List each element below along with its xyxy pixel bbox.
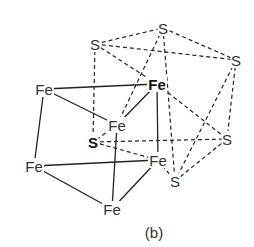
dashed-bond	[175, 60, 236, 181]
atom-label: S	[158, 20, 168, 37]
atom-fe: Fe	[34, 81, 54, 98]
atom-s: S	[222, 131, 233, 148]
solid-bond	[34, 89, 44, 166]
dashed-bond	[93, 44, 95, 142]
dashed-bond	[93, 139, 227, 142]
atom-label: Fe	[25, 158, 43, 175]
atom-label: Fe	[35, 81, 53, 98]
atom-fe: Fe	[147, 76, 167, 93]
atom-s: S	[231, 52, 242, 69]
atom-label: S	[90, 36, 100, 53]
atom-fe: Fe	[107, 117, 127, 134]
solid-bond	[34, 166, 112, 209]
solid-bond	[44, 89, 117, 125]
solid-bond	[157, 84, 158, 160]
solid-bond	[34, 160, 158, 166]
atom-s: S	[90, 36, 101, 53]
atom-label: S	[222, 131, 232, 148]
fe-s-cluster-diagram: SSSFeFeFeSSFeFeSFe (b)	[0, 0, 254, 247]
dashed-bond	[175, 139, 227, 181]
atom-fe: Fe	[102, 201, 122, 218]
atom-label: Fe	[149, 152, 167, 169]
atom-s: S	[158, 20, 169, 37]
atom-label: S	[231, 52, 241, 69]
atom-label: Fe	[148, 76, 166, 93]
atom-fe: Fe	[24, 158, 44, 175]
atom-fe: Fe	[148, 152, 168, 169]
atom-label: S	[88, 134, 98, 151]
solid-bond	[112, 125, 117, 209]
atom-label: S	[170, 173, 180, 190]
figure-caption: (b)	[145, 224, 163, 241]
atom-s: S	[170, 173, 181, 190]
dashed-bond	[227, 60, 236, 139]
atom-label: Fe	[103, 201, 121, 218]
dashed-bond	[95, 28, 163, 44]
solid-bond	[44, 84, 157, 89]
atom-label: Fe	[108, 117, 126, 134]
atom-s: S	[88, 134, 99, 151]
dashed-bond	[163, 28, 236, 60]
